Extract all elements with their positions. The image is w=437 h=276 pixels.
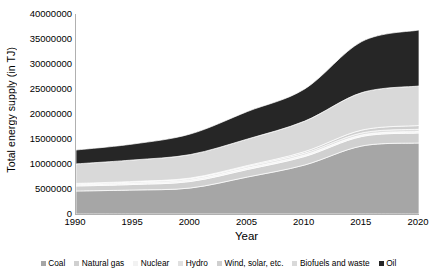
plot-inner xyxy=(76,14,419,214)
legend-swatch-icon xyxy=(41,261,46,266)
legend-swatch-icon xyxy=(178,261,183,266)
y-tick-label: 25000000 xyxy=(0,84,72,94)
x-tick-label: 2000 xyxy=(169,216,209,228)
y-tick-label: 5000000 xyxy=(0,184,72,194)
x-tick-label: 2020 xyxy=(398,216,437,228)
y-tick-label: 10000000 xyxy=(0,159,72,169)
legend-label: Natural gas xyxy=(82,258,124,268)
chart-container: Total energy supply (in TJ) 050000001000… xyxy=(0,0,437,276)
legend-swatch-icon xyxy=(292,261,297,266)
legend-label: Oil xyxy=(386,258,396,268)
chart-legend: CoalNatural gasNuclearHydroWind, solar, … xyxy=(0,256,437,270)
stacked-area-svg xyxy=(76,14,419,214)
legend-item[interactable]: Oil xyxy=(379,258,397,268)
legend-swatch-icon xyxy=(379,261,384,266)
x-tick-label: 2005 xyxy=(227,216,267,228)
legend-label: Biofuels and waste xyxy=(300,258,370,268)
y-tick-label: 15000000 xyxy=(0,134,72,144)
legend-item[interactable]: Coal xyxy=(41,258,66,268)
legend-swatch-icon xyxy=(133,261,138,266)
legend-item[interactable]: Wind, solar, etc. xyxy=(217,258,284,268)
legend-item[interactable]: Hydro xyxy=(178,258,208,268)
legend-label: Hydro xyxy=(186,258,208,268)
y-axis-ticks: 0500000010000000150000002000000025000000… xyxy=(0,14,72,214)
y-tick-label: 30000000 xyxy=(0,59,72,69)
x-tick-label: 1990 xyxy=(55,216,95,228)
x-axis-ticks: 1990199520002005201020152020 xyxy=(75,216,418,230)
legend-item[interactable]: Nuclear xyxy=(133,258,169,268)
x-tick-label: 1995 xyxy=(112,216,152,228)
legend-swatch-icon xyxy=(74,261,79,266)
x-tick-label: 2015 xyxy=(341,216,381,228)
x-tick-label: 2010 xyxy=(284,216,324,228)
legend-item[interactable]: Biofuels and waste xyxy=(292,258,369,268)
plot-area xyxy=(75,14,419,215)
legend-item[interactable]: Natural gas xyxy=(74,258,124,268)
y-tick-label: 40000000 xyxy=(0,9,72,19)
y-tick-label: 20000000 xyxy=(0,109,72,119)
legend-label: Wind, solar, etc. xyxy=(224,258,283,268)
y-tick-label: 35000000 xyxy=(0,34,72,44)
legend-label: Nuclear xyxy=(141,258,170,268)
legend-label: Coal xyxy=(48,258,65,268)
x-axis-title: Year xyxy=(75,230,418,242)
legend-swatch-icon xyxy=(217,261,222,266)
